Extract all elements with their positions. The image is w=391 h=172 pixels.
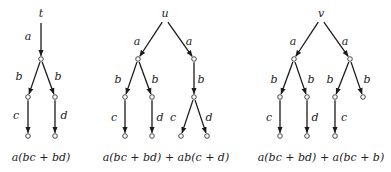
tree-v: aabbbbcdcva(bc + bd) + a(bc + b): [258, 7, 384, 164]
tree-node: [278, 95, 283, 100]
edge-label: b: [114, 73, 121, 86]
edge-label: a: [134, 35, 141, 48]
edge-label: a: [290, 35, 297, 48]
tree-node: [292, 57, 297, 62]
edge-label: b: [151, 73, 158, 86]
edge-arrow: [139, 62, 151, 94]
edge-label: c: [266, 111, 272, 124]
tree-node: [26, 95, 31, 100]
edge-label: b: [197, 73, 204, 86]
edge-arrow: [126, 62, 137, 94]
tree-node: [278, 134, 283, 139]
tree-node: [136, 57, 141, 62]
edge-label: b: [363, 73, 370, 86]
tree-node: [305, 95, 310, 100]
root-label: v: [318, 7, 325, 20]
tree-node: [53, 134, 58, 139]
tree-caption: a(bc + bd) + a(bc + b): [258, 151, 384, 164]
edge-label: b: [326, 73, 333, 86]
edge-arrow: [29, 62, 40, 94]
edge-label: b: [15, 70, 22, 83]
edge-label: a: [186, 35, 193, 48]
tree-node: [192, 57, 197, 62]
edge-label: a: [342, 35, 349, 48]
edge-label: d: [60, 109, 67, 122]
edge-arrow: [182, 100, 193, 133]
tree-caption: a(bc + bd) + ab(c + d): [103, 151, 229, 164]
tree-node: [39, 57, 44, 62]
edge-label: b: [270, 73, 277, 86]
tree-node: [26, 134, 31, 139]
edge-arrow: [195, 100, 206, 133]
edge-arrow: [281, 62, 293, 94]
tree-node: [333, 95, 338, 100]
edge-arrow: [42, 62, 54, 94]
tree-node: [361, 95, 366, 100]
edge-label: a: [25, 30, 32, 43]
edge-label: c: [111, 111, 117, 124]
edge-label: c: [341, 111, 347, 124]
edge-label: d: [205, 111, 212, 124]
root-label: u: [161, 7, 168, 20]
root-label: t: [39, 7, 44, 20]
edge-label: c: [13, 109, 19, 122]
edge-label: b: [54, 70, 61, 83]
tree-node: [205, 134, 210, 139]
tree-node: [305, 134, 310, 139]
tree-node: [123, 95, 128, 100]
edge-label: d: [156, 111, 163, 124]
tree-node: [179, 134, 184, 139]
tree-node: [150, 134, 155, 139]
tree-t: abbcdta(bc + bd): [12, 7, 71, 164]
edge-arrow: [351, 62, 362, 94]
tree-node: [53, 95, 58, 100]
edge-arrow: [295, 62, 306, 94]
tree-node: [192, 95, 197, 100]
edge-arrow: [336, 62, 349, 94]
edge-arrow: [296, 22, 318, 56]
tree-u: aabbbcdcdua(bc + bd) + ab(c + d): [103, 7, 229, 164]
tree-node: [348, 57, 353, 62]
edge-label: d: [311, 111, 318, 124]
tree-caption: a(bc + bd): [12, 151, 71, 164]
tree-node: [333, 134, 338, 139]
tree-node: [150, 95, 155, 100]
edge-label: b: [307, 73, 314, 86]
edge-label: c: [170, 111, 176, 124]
edge-arrow: [140, 22, 162, 56]
tree-node: [123, 134, 128, 139]
tree-diagrams: abbcdta(bc + bd)aabbbcdcdua(bc + bd) + a…: [0, 0, 391, 172]
